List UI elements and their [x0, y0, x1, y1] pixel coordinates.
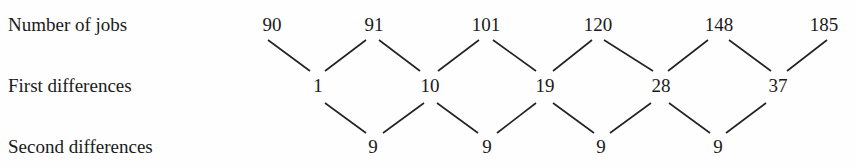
jobs-value: 120	[584, 14, 613, 36]
second-difference-value: 9	[368, 136, 378, 158]
jobs-value: 101	[472, 14, 501, 36]
second-difference-value: 9	[482, 136, 492, 158]
first-difference-value: 37	[769, 75, 788, 97]
second-difference-value: 9	[713, 136, 723, 158]
first-difference-value: 19	[536, 75, 555, 97]
first-difference-value: 1	[313, 75, 323, 97]
first-difference-value: 10	[421, 75, 440, 97]
jobs-value: 90	[263, 14, 282, 36]
second-difference-value: 9	[596, 136, 606, 158]
jobs-value: 185	[810, 14, 839, 36]
jobs-value: 148	[705, 14, 734, 36]
jobs-value: 91	[365, 14, 384, 36]
first-difference-value: 28	[652, 75, 671, 97]
